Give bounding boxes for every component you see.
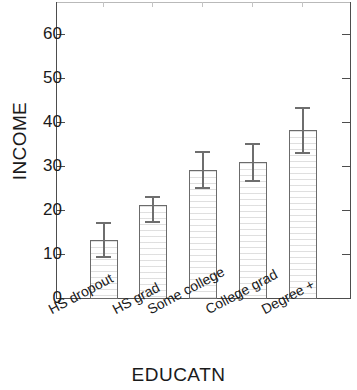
error-bar-cap-upper-some-college (195, 151, 210, 153)
error-bar-cap-upper-college-grad (245, 143, 260, 145)
error-bar-stem-degree-plus (302, 107, 304, 153)
y-tick-label-20: 20 (26, 201, 62, 218)
error-bar-cap-lower-some-college (195, 187, 210, 189)
y-tick-right-20 (342, 210, 351, 211)
axis-top-line (56, 2, 351, 3)
x-tick-top-0 (103, 2, 104, 7)
error-bar-cap-lower-college-grad (245, 180, 260, 182)
y-tick-label-40: 40 (26, 113, 62, 130)
error-bar-cap-upper-hs-dropout (96, 222, 111, 224)
error-bar-cap-lower-degree-plus (295, 152, 310, 154)
y-tick-label-30: 30 (26, 157, 62, 174)
y-axis-title: INCOME (9, 81, 31, 201)
y-tick-right-40 (342, 122, 351, 123)
error-bar-stem-hs-grad (152, 196, 154, 223)
y-tick-label-50: 50 (26, 69, 62, 86)
y-tick-right-0 (342, 298, 351, 299)
error-bar-cap-lower-hs-dropout (96, 256, 111, 258)
bar-degree-plus[interactable] (289, 130, 317, 299)
y-tick-right-30 (342, 166, 351, 167)
y-tick-right-10 (342, 254, 351, 255)
x-tick-top-3 (252, 2, 253, 7)
y-tick-label-10: 10 (26, 245, 62, 262)
error-bar-stem-college-grad (252, 143, 254, 181)
error-bar-cap-upper-hs-grad (145, 196, 160, 198)
error-bar-stem-some-college (202, 151, 204, 188)
y-tick-label-60: 60 (26, 25, 62, 42)
y-tick-right-60 (342, 34, 351, 35)
bar-chart-figure: 0 10 20 30 40 50 60 HS dr (0, 0, 357, 390)
y-tick-right-50 (342, 78, 351, 79)
x-tick-top-1 (152, 2, 153, 7)
error-bar-stem-hs-dropout (103, 222, 105, 257)
x-tick-top-2 (202, 2, 203, 7)
error-bar-cap-upper-degree-plus (295, 107, 310, 109)
x-tick-top-4 (302, 2, 303, 7)
x-axis-title: EDUCATN (0, 364, 357, 386)
error-bar-cap-lower-hs-grad (145, 221, 160, 223)
